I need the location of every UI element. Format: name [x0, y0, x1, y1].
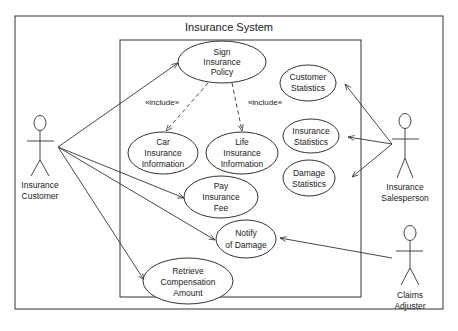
use-case-damage-statistics[interactable]: Damage Statistics: [283, 160, 335, 196]
use-case-diagram: Insurance System «include» «include» Sig…: [0, 0, 458, 331]
svg-text:Notify: Notify: [235, 228, 257, 238]
svg-text:Customer: Customer: [22, 191, 59, 201]
svg-text:of Damage: of Damage: [225, 240, 267, 250]
use-case-sign-insurance-policy[interactable]: Sign Insurance Policy: [178, 41, 266, 83]
use-case-customer-statistics[interactable]: Customer Statistics: [280, 65, 336, 101]
svg-text:Retrieve: Retrieve: [172, 266, 204, 276]
use-case-pay-insurance-fee[interactable]: Pay Insurance Fee: [184, 176, 258, 218]
svg-text:Insurance: Insurance: [386, 182, 424, 192]
svg-text:Amount: Amount: [173, 288, 203, 298]
use-case-life-insurance-information[interactable]: Life Insurance Information: [206, 132, 278, 174]
use-case-car-insurance-information[interactable]: Car Insurance Information: [128, 132, 198, 174]
svg-text:Statistics: Statistics: [291, 83, 325, 93]
svg-text:Statistics: Statistics: [292, 179, 326, 189]
svg-text:Information: Information: [142, 159, 185, 169]
svg-text:Adjuster: Adjuster: [394, 301, 425, 311]
svg-text:Insurance: Insurance: [223, 148, 261, 158]
svg-text:Claims: Claims: [397, 290, 423, 300]
svg-text:Fee: Fee: [214, 203, 229, 213]
svg-text:Insurance: Insurance: [292, 126, 330, 136]
svg-text:Salesperson: Salesperson: [381, 193, 429, 203]
svg-text:Insurance: Insurance: [21, 180, 59, 190]
include-label-car: «include»: [145, 98, 180, 107]
svg-text:Insurance: Insurance: [202, 192, 240, 202]
svg-text:Sign: Sign: [213, 47, 230, 57]
use-case-notify-of-damage[interactable]: Notify of Damage: [216, 220, 276, 258]
svg-text:Life: Life: [235, 137, 249, 147]
use-case-insurance-statistics[interactable]: Insurance Statistics: [283, 119, 339, 153]
svg-text:Insurance: Insurance: [144, 148, 182, 158]
diagram-title: Insurance System: [185, 21, 273, 33]
svg-text:Policy: Policy: [211, 67, 234, 77]
svg-text:Pay: Pay: [214, 181, 229, 191]
svg-text:Car: Car: [156, 137, 170, 147]
svg-text:Information: Information: [221, 159, 264, 169]
include-label-life: «include»: [248, 98, 283, 107]
svg-text:Compensation: Compensation: [161, 277, 216, 287]
svg-text:Statistics: Statistics: [294, 137, 328, 147]
use-case-retrieve-compensation-amount[interactable]: Retrieve Compensation Amount: [143, 258, 233, 304]
svg-text:Damage: Damage: [293, 168, 325, 178]
svg-text:Customer: Customer: [290, 72, 327, 82]
svg-text:Insurance: Insurance: [203, 57, 241, 67]
